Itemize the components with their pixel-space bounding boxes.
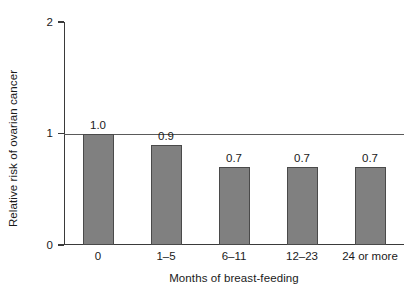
x-tick-label: 24 or more [342, 250, 398, 262]
x-tick-label: 6–11 [222, 250, 247, 262]
bar: 1.0 [83, 134, 114, 246]
plot-area: 012 1.00.90.70.70.7 01–56–1112–2324 or m… [64, 22, 404, 245]
reference-line [64, 134, 404, 135]
bar: 0.7 [219, 167, 250, 245]
bar: 0.7 [287, 167, 318, 245]
bar-value-label: 0.7 [226, 152, 242, 164]
y-tick-0: 0 [58, 244, 64, 245]
bar: 0.7 [355, 167, 386, 245]
x-axis-title: Months of breast-feeding [64, 272, 404, 284]
y-tick-1: 1 [58, 133, 64, 134]
y-axis-title: Relative risk of ovarian cancer [0, 0, 26, 297]
x-tick-label: 12–23 [286, 250, 318, 262]
y-tick-label: 1 [47, 127, 53, 139]
x-tick-label: 1–5 [156, 250, 175, 262]
bar-value-label: 0.7 [362, 152, 378, 164]
y-tick-label: 2 [47, 16, 53, 28]
y-tick-label: 0 [47, 239, 53, 251]
x-tick-label: 0 [95, 250, 101, 262]
chart-figure: Relative risk of ovarian cancer 012 1.00… [0, 0, 418, 297]
bar: 0.9 [151, 145, 182, 245]
y-tick-2: 2 [58, 21, 64, 22]
bar-value-label: 0.7 [294, 152, 310, 164]
bar-value-label: 0.9 [158, 130, 174, 142]
bar-value-label: 1.0 [90, 119, 106, 131]
